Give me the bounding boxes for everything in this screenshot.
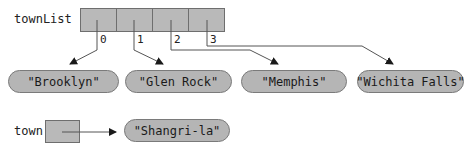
reference-variable-label: town bbox=[14, 124, 43, 138]
string-object-glen-rock: "Glen Rock" bbox=[125, 70, 232, 93]
index-label-1: 1 bbox=[137, 33, 144, 46]
string-object-brooklyn: "Brooklyn" bbox=[8, 70, 119, 93]
townlist-array bbox=[80, 8, 225, 32]
array-cell-0 bbox=[81, 9, 117, 31]
array-cell-2 bbox=[153, 9, 189, 31]
index-label-2: 2 bbox=[174, 33, 181, 46]
index-label-0: 0 bbox=[100, 33, 107, 46]
string-object-shangri-la: "Shangri-la" bbox=[124, 119, 230, 142]
town-reference-box bbox=[45, 120, 80, 143]
array-variable-label: townList bbox=[14, 12, 72, 26]
string-object-memphis: "Memphis" bbox=[241, 70, 347, 93]
array-cell-1 bbox=[117, 9, 153, 31]
index-label-3: 3 bbox=[210, 33, 217, 46]
array-cell-3 bbox=[189, 9, 224, 31]
pointer-arrow-3 bbox=[207, 20, 393, 64]
string-object-wichita-falls: "Wichita Falls" bbox=[357, 70, 464, 93]
